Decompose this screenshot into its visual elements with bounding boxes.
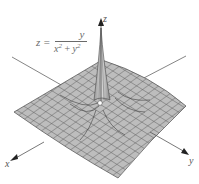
den-plus: + <box>62 43 73 54</box>
y-axis-back <box>140 56 186 80</box>
den-y-exp: 2 <box>77 42 81 50</box>
y-axis-front <box>150 132 185 152</box>
y-axis-arrow-icon <box>181 148 189 155</box>
equation-denominator: x2 + y2 <box>54 43 81 54</box>
z-axis-label: z <box>103 13 107 24</box>
surface-plot-figure: z = y x2 + y2 z x y <box>0 0 199 184</box>
equation-numerator: y <box>64 29 100 40</box>
y-axis-label: y <box>189 155 193 166</box>
x-axis-arrow-icon <box>10 154 18 161</box>
equation-lhs: z = <box>36 37 50 48</box>
x-axis-front <box>14 142 44 159</box>
x-axis-label: x <box>5 158 9 169</box>
surface-plot-svg <box>0 0 199 184</box>
origin-point <box>98 101 103 106</box>
